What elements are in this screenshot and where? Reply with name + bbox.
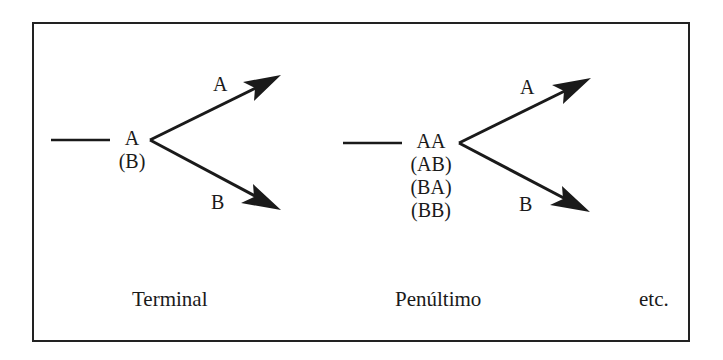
branch-label-down: B bbox=[211, 191, 224, 213]
state-label: (B) bbox=[112, 150, 152, 173]
branch-label-up: A bbox=[520, 76, 534, 98]
state-label: A bbox=[112, 127, 152, 150]
caption-terminal: Terminal bbox=[132, 287, 208, 312]
terminal-state-stack: A (B) bbox=[112, 127, 152, 173]
state-label: (BA) bbox=[404, 176, 458, 199]
caption-etc: etc. bbox=[639, 287, 669, 312]
state-label: (AB) bbox=[404, 153, 458, 176]
penultimo-state-stack: AA (AB) (BA) (BB) bbox=[404, 130, 458, 222]
caption-penultimo: Penúltimo bbox=[395, 287, 481, 312]
branch-label-down: B bbox=[519, 193, 532, 215]
state-label: AA bbox=[404, 130, 458, 153]
branch-arrows bbox=[0, 0, 723, 360]
branch-label-up: A bbox=[213, 73, 227, 95]
state-label: (BB) bbox=[404, 199, 458, 222]
